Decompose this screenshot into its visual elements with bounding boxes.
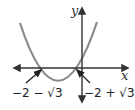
root-left-pointer: [26, 70, 41, 83]
root-right-label: −2 + √3: [84, 86, 135, 100]
parabola-curve: [20, 22, 97, 81]
root-right-pointer: [77, 70, 90, 83]
x-axis-label: x: [121, 68, 129, 83]
root-left-label: −2 − √3: [12, 86, 63, 100]
y-axis-label: y: [70, 3, 79, 18]
parabola-graph: x y −2 − √3 −2 + √3: [0, 0, 135, 110]
